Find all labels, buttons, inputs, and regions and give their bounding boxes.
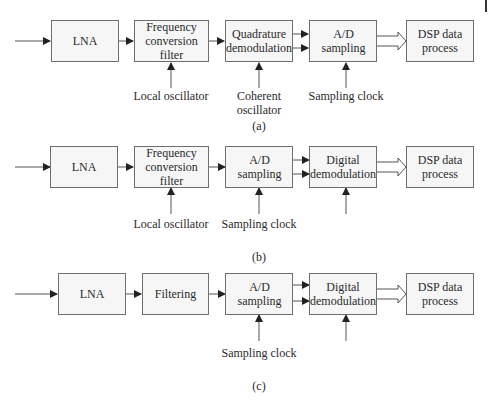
caption-c: (c) [244, 379, 274, 394]
input-a-sampling-clock: Sampling clock [301, 89, 391, 103]
block-b-lna: LNA [50, 146, 118, 188]
block-c-digital-demodulation: Digital demodulation [309, 273, 377, 315]
caption-a: (a) [244, 119, 274, 134]
input-a-coherent-oscillator: Coherent oscillator [214, 89, 304, 117]
block-a-quadrature-demodulation: Quadrature demodulation [225, 20, 293, 62]
block-a-ad-sampling: A/D sampling [309, 20, 377, 62]
page-edge-mark [485, 0, 487, 12]
block-a-frequency-conversion-filter: Frequency conversion filter [134, 20, 209, 62]
block-c-filtering: Filtering [142, 273, 209, 315]
input-b-sampling-clock: Sampling clock [214, 217, 304, 231]
block-b-ad-sampling: A/D sampling [225, 146, 293, 188]
input-b-local-oscillator: Local oscillator [126, 217, 216, 231]
block-b-dsp-data-process: DSP data process [406, 146, 474, 188]
block-b-frequency-conversion-filter: Frequency conversion filter [134, 146, 209, 188]
block-c-lna: LNA [58, 273, 126, 315]
block-b-digital-demodulation: Digital demodulation [309, 146, 377, 188]
block-a-dsp-data-process: DSP data process [406, 20, 474, 62]
input-c-sampling-clock: Sampling clock [214, 346, 304, 360]
caption-b: (b) [244, 250, 274, 265]
input-a-local-oscillator: Local oscillator [126, 89, 216, 103]
block-c-dsp-data-process: DSP data process [406, 273, 474, 315]
block-c-ad-sampling: A/D sampling [225, 273, 293, 315]
block-a-lna: LNA [51, 20, 119, 62]
